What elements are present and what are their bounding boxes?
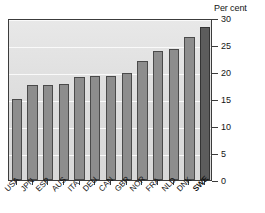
bar-deu (90, 76, 100, 180)
bar-gbr (122, 73, 132, 180)
y-tick-label: 5 (221, 150, 226, 159)
bar-esp (43, 85, 53, 180)
bar-fra (153, 51, 163, 180)
y-tick-label: 10 (221, 123, 231, 132)
y-axis: 051015202530 (212, 19, 264, 181)
y-tick-label: 15 (221, 96, 231, 105)
bar-aus (59, 84, 69, 180)
y-tick (212, 100, 218, 101)
y-tick (212, 154, 218, 155)
y-tick (212, 127, 218, 128)
x-tick-label-usa: USA (3, 175, 21, 193)
bar-can (106, 76, 116, 180)
bar-jpn (27, 85, 37, 180)
bar-nld (169, 49, 179, 180)
y-tick (212, 46, 218, 47)
bar-swe (200, 27, 210, 180)
x-axis: USAJPNESPAUSITADEUCANGBRNORFRANLDDNKSWE (8, 181, 212, 213)
chart-figure: Per cent 051015202530 USAJPNESPAUSITADEU… (0, 0, 265, 213)
y-tick (212, 181, 218, 182)
y-tick-label: 25 (221, 42, 231, 51)
bar-ita (74, 77, 84, 180)
bars-series (9, 20, 211, 180)
y-tick (212, 73, 218, 74)
y-tick-label: 30 (221, 15, 231, 24)
bar-usa (12, 99, 22, 180)
y-axis-units-label: Per cent (214, 3, 247, 13)
y-tick-label: 0 (221, 177, 226, 186)
bar-nor (137, 61, 147, 180)
y-tick-label: 20 (221, 69, 231, 78)
y-tick (212, 19, 218, 20)
plot-area (8, 19, 212, 181)
bar-dnk (184, 37, 194, 180)
